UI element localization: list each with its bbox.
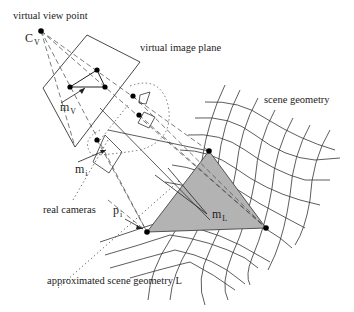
label-ml-sub: L [222, 214, 227, 223]
label-ml: mL [212, 208, 227, 220]
label-mv-main: m [60, 100, 69, 114]
label-pi-sub: i [120, 210, 122, 219]
label-virtual-view-point: virtual view point [13, 11, 88, 22]
label-mi-main: m [75, 162, 84, 176]
image-point-dot [94, 67, 99, 72]
triangle-vertex-dot [206, 148, 212, 154]
triangle-vertex-dot [263, 225, 269, 231]
label-cv: CV [25, 32, 40, 44]
label-ml-main: m [212, 207, 221, 221]
label-cv-sub: V [34, 38, 40, 47]
label-mv-sub: V [70, 107, 76, 116]
projected-triangle [70, 70, 105, 87]
label-pi-main: p [113, 203, 119, 217]
real-camera-dot [136, 112, 141, 117]
real-camera-dot [94, 137, 99, 142]
label-virtual-image-plane: virtual image plane [140, 43, 221, 54]
diagram-canvas: virtual view point CV virtual image plan… [0, 0, 354, 312]
real-camera-dot [130, 93, 135, 98]
image-point-dot [67, 84, 72, 89]
label-pi: pi [113, 204, 122, 216]
label-scene-geometry: scene geometry [264, 95, 330, 106]
label-real-cameras: real cameras [43, 205, 96, 216]
real-cameras-region [88, 83, 170, 155]
image-point-dot [102, 84, 107, 89]
label-mi: mi [75, 163, 88, 175]
triangle-vertex-dot [144, 229, 150, 235]
virtual-image-plane [43, 35, 140, 147]
label-mi-sub: i [85, 169, 87, 178]
label-approximated-scene-geometry: approximated scene geometry L [47, 276, 182, 287]
label-mv: mV [60, 101, 76, 113]
approximated-geometry-triangle [147, 151, 266, 232]
label-cv-main: C [25, 31, 33, 45]
